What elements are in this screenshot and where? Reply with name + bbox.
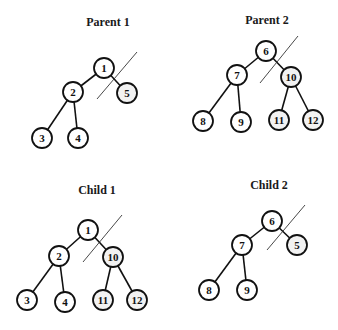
tree-node-6: 6 <box>262 211 282 231</box>
node-label: 6 <box>263 45 269 57</box>
tree-node-10: 10 <box>103 247 123 267</box>
node-label: 12 <box>132 294 144 306</box>
node-label: 5 <box>124 87 130 99</box>
tree-node-12: 12 <box>303 110 323 130</box>
crossover-diagram: Parent 112534Parent 26710891112Child 112… <box>0 0 338 330</box>
node-label: 5 <box>294 239 300 251</box>
tree-node-1: 1 <box>94 58 114 78</box>
tree-node-2: 2 <box>63 82 83 102</box>
tree-parent2: Parent 26710891112 <box>193 13 323 132</box>
node-label: 10 <box>108 251 120 263</box>
node-label: 11 <box>274 114 284 126</box>
tree-node-7: 7 <box>232 235 252 255</box>
tree-node-7: 7 <box>227 65 247 85</box>
tree-title: Child 2 <box>250 178 288 192</box>
tree-child1: Child 11210341112 <box>17 183 147 312</box>
node-label: 7 <box>239 239 245 251</box>
node-label: 2 <box>70 86 76 98</box>
node-label: 7 <box>234 69 240 81</box>
node-label: 1 <box>101 62 107 74</box>
node-label: 12 <box>308 114 320 126</box>
tree-title: Parent 2 <box>245 13 288 27</box>
tree-node-9: 9 <box>231 112 251 132</box>
node-label: 6 <box>269 215 275 227</box>
tree-parent1: Parent 112534 <box>32 15 137 148</box>
tree-node-5: 5 <box>117 83 137 103</box>
node-label: 3 <box>39 132 45 144</box>
tree-node-1: 1 <box>78 220 98 240</box>
tree-node-10: 10 <box>281 67 301 87</box>
tree-title: Child 1 <box>78 183 116 197</box>
node-label: 8 <box>200 115 206 127</box>
node-label: 9 <box>244 284 250 296</box>
tree-node-11: 11 <box>93 290 113 310</box>
tree-node-6: 6 <box>256 41 276 61</box>
tree-node-9: 9 <box>237 280 257 300</box>
tree-node-11: 11 <box>269 110 289 130</box>
tree-node-8: 8 <box>199 280 219 300</box>
tree-child2: Child 267589 <box>199 178 307 300</box>
tree-title: Parent 1 <box>86 15 129 29</box>
node-label: 11 <box>98 294 108 306</box>
tree-node-5: 5 <box>287 235 307 255</box>
tree-node-4: 4 <box>55 292 75 312</box>
node-label: 8 <box>206 284 212 296</box>
node-label: 1 <box>85 224 91 236</box>
tree-node-3: 3 <box>32 128 52 148</box>
node-label: 10 <box>286 71 298 83</box>
tree-node-3: 3 <box>17 290 37 310</box>
node-label: 3 <box>24 294 30 306</box>
node-label: 2 <box>56 250 62 262</box>
tree-node-8: 8 <box>193 111 213 131</box>
tree-node-2: 2 <box>49 246 69 266</box>
tree-node-12: 12 <box>127 290 147 310</box>
node-label: 4 <box>62 296 68 308</box>
tree-node-4: 4 <box>68 128 88 148</box>
node-label: 9 <box>238 116 244 128</box>
node-label: 4 <box>75 132 81 144</box>
